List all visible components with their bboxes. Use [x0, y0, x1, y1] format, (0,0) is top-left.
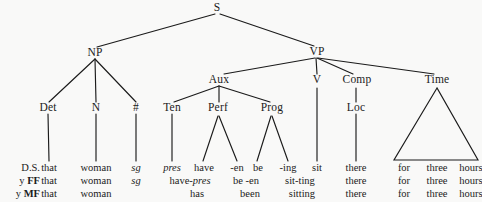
terminal-ds-prog-be: be [253, 163, 263, 174]
branch-aux-prog [219, 86, 270, 102]
terminal-ds-perf-en: -en [230, 163, 243, 174]
terminal-ff-time-hours: hours [459, 176, 482, 187]
row-label-by-mf: y MF [16, 189, 40, 200]
terminal-ff-time-three: three [427, 176, 448, 187]
terminal-mf-been: been [240, 189, 260, 200]
node-np: NP [87, 47, 102, 59]
branch-prog-be [257, 116, 271, 161]
row-label-deep-structure: D.S. [21, 163, 40, 174]
node-time: Time [425, 74, 450, 86]
branch-s-vp [220, 14, 314, 46]
node-n: N [92, 102, 101, 114]
terminal-ff-have-pres-stem: have- [169, 175, 192, 186]
syntax-tree-figure: S NP VP Det N # Aux Ten Perf Prog V Comp… [0, 0, 482, 202]
terminal-ds-v: sit [312, 163, 322, 174]
terminal-ff-be-en: be -en [233, 176, 259, 187]
terminal-ff-sit-ting: sit-ting [285, 176, 315, 187]
branch-np-n [95, 59, 96, 102]
terminal-ff-loc: there [346, 176, 367, 187]
terminal-ds-time-hours: hours [459, 163, 482, 174]
terminal-mf-n: woman [81, 189, 112, 200]
node-loc: Loc [347, 102, 365, 114]
node-det: Det [39, 102, 56, 114]
row-label-by-mf-bold: MF [24, 188, 40, 199]
node-prog: Prog [261, 102, 284, 114]
row-label-by-ff-prefix: y [19, 175, 27, 186]
terminal-mf-time-three: three [427, 189, 448, 200]
branch-vp-v [316, 58, 317, 74]
node-ten: Ten [163, 102, 181, 114]
node-vp: VP [309, 46, 324, 58]
branch-vp-aux [224, 58, 315, 74]
terminal-ds-perf-have: have [194, 163, 214, 174]
terminal-ff-have-pres: have-pres [169, 176, 210, 187]
branch-aux-ten [174, 86, 219, 102]
terminal-mf-sitting: sitting [289, 189, 315, 200]
terminal-ds-n: woman [81, 163, 112, 174]
terminal-ds-loc: there [346, 163, 367, 174]
node-v: V [313, 74, 322, 86]
branch-perf-have [203, 116, 218, 161]
terminal-mf-loc: there [346, 189, 367, 200]
terminal-mf-has: has [190, 189, 204, 200]
terminal-ds-ten: pres [163, 163, 181, 174]
branch-s-np [97, 14, 215, 47]
node-aux: Aux [209, 74, 229, 86]
terminal-ff-det: that [41, 176, 57, 187]
node-perf: Perf [208, 102, 228, 114]
node-number: # [133, 102, 139, 114]
row-label-by-mf-prefix: y [16, 188, 24, 199]
terminal-ff-n: woman [81, 176, 112, 187]
stem-det-that [48, 114, 49, 161]
terminal-ff-time-for: for [398, 176, 410, 187]
terminal-ds-prog-ing: -ing [280, 163, 297, 174]
terminal-ff-have-pres-affix: pres [193, 175, 211, 186]
node-s: S [214, 2, 221, 14]
row-label-by-ff-bold: FF [27, 175, 40, 186]
row-label-by-ff: y FF [19, 176, 40, 187]
terminal-ff-number: sg [131, 176, 140, 187]
terminal-ds-time-for: for [398, 163, 410, 174]
terminal-ds-det: that [41, 163, 57, 174]
terminal-mf-time-hours: hours [459, 189, 482, 200]
terminal-ds-time-three: three [427, 163, 448, 174]
branch-prog-ing [272, 116, 288, 161]
time-triangle [394, 88, 478, 160]
node-comp: Comp [343, 74, 372, 86]
branch-np-num [95, 59, 136, 102]
terminal-ds-number: sg [131, 163, 140, 174]
terminal-mf-det: that [41, 189, 57, 200]
terminal-mf-time-for: for [398, 189, 410, 200]
branch-perf-en [219, 116, 237, 161]
branch-np-det [49, 59, 95, 102]
